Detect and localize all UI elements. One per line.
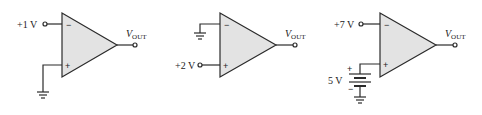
output-terminal-icon (453, 43, 457, 47)
output-label: VOUT (285, 28, 306, 41)
minus-sign: − (66, 20, 71, 30)
noninverting-battery-wire (360, 64, 380, 74)
input-terminal-icon (43, 22, 47, 26)
output-label: VOUT (126, 28, 147, 41)
input-voltage-label: +2 V (175, 60, 196, 71)
battery-plus-sign: + (347, 64, 352, 74)
ground-icon (37, 92, 49, 98)
plus-sign: + (65, 61, 70, 71)
output-label: VOUT (445, 28, 466, 41)
input-terminal-icon (198, 63, 202, 67)
circuit-1 (37, 13, 137, 98)
output-terminal-icon (133, 43, 137, 47)
plus-sign: + (223, 61, 228, 71)
inverting-ground-wire (200, 24, 220, 33)
output-terminal-icon (293, 43, 297, 47)
minus-sign: − (224, 20, 229, 30)
input-terminal-icon (359, 22, 363, 26)
battery-voltage-label: 5 V (328, 75, 343, 86)
noninverting-ground-wire (43, 65, 62, 92)
minus-sign: − (384, 20, 389, 30)
battery-minus-sign: − (348, 84, 353, 94)
circuit-3 (349, 13, 457, 103)
ground-icon (194, 33, 206, 39)
input-voltage-label: +7 V (334, 19, 355, 30)
opamp-diagrams: +1 V − + VOUT +2 V − + VOUT (0, 0, 482, 115)
ground-icon (354, 97, 366, 103)
circuit-2 (194, 13, 297, 77)
plus-sign: + (383, 60, 388, 70)
input-voltage-label: +1 V (17, 19, 38, 30)
